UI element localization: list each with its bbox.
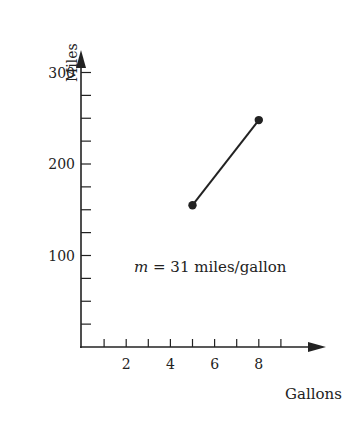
x-tick-label: 4 [166, 356, 175, 372]
x-tick-label: 2 [122, 356, 131, 372]
y-axis-label: Miles [64, 43, 80, 82]
chart: 2468 100200300 Miles Gallons m = 31 mile… [0, 0, 344, 431]
x-axis-label: Gallons [285, 385, 342, 403]
y-ticks: 100200300 [48, 65, 91, 325]
series [188, 116, 263, 209]
data-line [193, 120, 259, 205]
slope-annotation: m = 31 miles/gallon [134, 258, 287, 276]
x-tick-label: 6 [210, 356, 219, 372]
x-ticks: 2468 [104, 339, 281, 372]
slope-value: = 31 miles/gallon [148, 258, 287, 276]
x-axis-arrow-icon [308, 342, 326, 352]
slope-variable: m [134, 258, 148, 276]
x-tick-label: 8 [254, 356, 263, 372]
y-tick-label: 200 [48, 156, 75, 172]
data-point [255, 116, 263, 124]
axes [76, 50, 326, 352]
y-tick-label: 100 [48, 248, 75, 264]
data-point [188, 201, 196, 209]
